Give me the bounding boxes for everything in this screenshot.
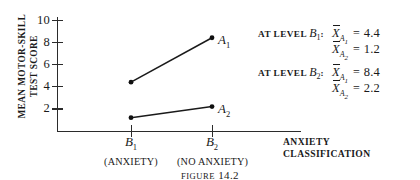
series-label-a2-base: A bbox=[218, 101, 226, 116]
annotation-prefix-text: AT LEVEL bbox=[258, 68, 309, 78]
series-label-a1-sub: 1 bbox=[226, 39, 230, 49]
overbar-icon bbox=[333, 41, 341, 42]
x-axis-title: ANXIETY CLASSIFICATION bbox=[283, 136, 371, 159]
annotation-level: B1 bbox=[309, 26, 320, 40]
annotation-colon: : bbox=[321, 68, 325, 78]
x-axis-title-line1: ANXIETY bbox=[283, 136, 371, 148]
annotation-prefix: AT LEVEL B1: bbox=[258, 26, 332, 42]
annotation-statistic-base: X bbox=[332, 26, 340, 40]
annotation-statistic-base: X bbox=[332, 42, 340, 56]
annotation-value: 1.2 bbox=[364, 42, 380, 57]
x-category-b2-base: B bbox=[206, 134, 214, 149]
annotation-statistic-base: X bbox=[332, 81, 340, 95]
x-category-b2: B2 (NO ANXIETY) bbox=[177, 134, 247, 169]
annotation-equals: = bbox=[348, 65, 364, 80]
annotation-equals: = bbox=[348, 26, 364, 41]
series-line-a2 bbox=[131, 107, 212, 118]
annotation-equals: = bbox=[348, 42, 364, 57]
data-point-a2-b1 bbox=[129, 115, 134, 120]
figure-caption: FIGURE 14.2 bbox=[0, 169, 420, 180]
overbar-icon bbox=[333, 64, 341, 65]
x-category-b1-paren: (ANXIETY) bbox=[96, 155, 166, 169]
x-category-b2-code: B2 bbox=[177, 134, 247, 155]
figure-caption-label: FIGURE bbox=[181, 171, 215, 180]
annotation-statistic-subsub: 2 bbox=[345, 92, 349, 100]
data-point-a1-b2 bbox=[210, 35, 215, 40]
annotation-statistic-sub: A2 bbox=[340, 50, 348, 59]
series-line-a1 bbox=[131, 38, 212, 82]
annotation-statistic-base: X bbox=[332, 65, 340, 79]
annotation-row: XA2=2.2 bbox=[258, 81, 380, 97]
series-label-a1-base: A bbox=[218, 32, 226, 47]
series-label-a1: A1 bbox=[218, 33, 230, 52]
annotation-row: XA2=1.2 bbox=[258, 42, 380, 58]
data-point-a2-b2 bbox=[210, 104, 215, 109]
x-category-b2-paren: (NO ANXIETY) bbox=[177, 155, 247, 169]
x-category-b1-sub: 1 bbox=[133, 142, 137, 152]
annotation-group-1: AT LEVEL B1:XA1=4.4XA2=1.2 bbox=[258, 26, 380, 58]
x-category-b1: B1 (ANXIETY) bbox=[96, 134, 166, 169]
annotation-statistic: XA2 bbox=[332, 81, 348, 100]
annotation-prefix-text: AT LEVEL bbox=[258, 29, 309, 39]
x-category-b1-base: B bbox=[125, 134, 133, 149]
series-label-a2-sub: 2 bbox=[226, 108, 230, 118]
annotation-statistic: XA2 bbox=[332, 42, 348, 61]
overbar-icon bbox=[333, 25, 341, 26]
annotation-value: 2.2 bbox=[364, 81, 380, 96]
annotation-group-2: AT LEVEL B2:XA1=8.4XA2=2.2 bbox=[258, 65, 380, 97]
annotation-value: 4.4 bbox=[364, 26, 380, 41]
overbar-icon bbox=[333, 80, 341, 81]
data-point-a1-b1 bbox=[129, 80, 134, 85]
annotation-statistic-subsub: 2 bbox=[345, 53, 349, 61]
series-label-a2: A2 bbox=[218, 102, 230, 121]
annotation-statistic-sub: A2 bbox=[340, 89, 348, 98]
annotation-colon: : bbox=[321, 29, 325, 39]
annotation-value: 8.4 bbox=[364, 65, 380, 80]
annotation-equals: = bbox=[348, 81, 364, 96]
annotation-row: AT LEVEL B1:XA1=4.4 bbox=[258, 26, 380, 42]
annotation-row: AT LEVEL B2:XA1=8.4 bbox=[258, 65, 380, 81]
annotation-level: B2 bbox=[309, 65, 320, 79]
x-category-b1-code: B1 bbox=[96, 134, 166, 155]
interaction-plot-figure: MEAN MOTOR-SKILL TEST SCORE 246810 A1 A2… bbox=[0, 0, 420, 180]
x-category-b2-sub: 2 bbox=[214, 142, 218, 152]
figure-caption-number: 14.2 bbox=[218, 169, 239, 180]
annotations-block: AT LEVEL B1:XA1=4.4XA2=1.2AT LEVEL B2:XA… bbox=[258, 26, 380, 104]
x-axis-title-line2: CLASSIFICATION bbox=[283, 148, 371, 160]
annotation-prefix: AT LEVEL B2: bbox=[258, 65, 332, 81]
